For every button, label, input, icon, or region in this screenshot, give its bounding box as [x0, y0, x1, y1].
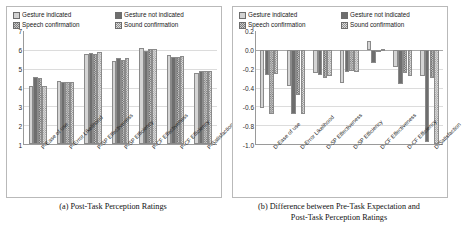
bar-gesture-indicated	[367, 41, 371, 49]
bar-sound-confirmation	[301, 50, 305, 114]
bar-sound-confirmation	[381, 49, 385, 51]
legend-label: Sound confirmation	[124, 21, 178, 29]
bar-sound-confirmation	[408, 50, 412, 76]
bar-sound-confirmation	[208, 71, 212, 144]
y-tick-label: 7	[18, 28, 22, 35]
legend-item-speech-confirmation: Speech confirmation	[239, 21, 341, 29]
x-axis-labels-b: D-Ease of useD-Error LikelihoodD-SP Effe…	[255, 145, 443, 197]
y-tick-label: 2	[18, 123, 22, 130]
panel-a: Gesture indicated Gesture not indicated …	[0, 0, 226, 236]
y-tick-label: -0.8	[243, 123, 254, 130]
legend-item-speech-confirmation: Speech confirmation	[13, 21, 115, 29]
chart-b: Gesture indicated Gesture not indicated …	[232, 6, 448, 198]
legend-item-sound-confirmation: Sound confirmation	[115, 21, 217, 29]
legend-label: Sound confirmation	[350, 21, 404, 29]
y-tick-label: -1.0	[243, 142, 254, 149]
y-tick-label: 1	[18, 142, 22, 149]
y-tick-label: -0.6	[243, 103, 254, 110]
bar-sound-confirmation	[274, 50, 278, 74]
bar-group	[256, 31, 283, 144]
legend-item-sound-confirmation: Sound confirmation	[341, 21, 443, 29]
caption-b-line2: Post-Task Perception Ratings	[230, 212, 448, 223]
legend-b: Gesture indicated Gesture not indicated …	[239, 11, 443, 29]
legend-label: Speech confirmation	[22, 21, 79, 29]
y-tick-label: 0.0	[245, 46, 254, 53]
caption-b: (b) Difference between Pre-Task Expectat…	[226, 201, 452, 223]
y-tick-label: -0.2	[243, 65, 254, 72]
caption-a: (a) Post-Task Perception Ratings	[0, 201, 226, 212]
legend-label: Gesture indicated	[22, 11, 71, 19]
bar-sound-confirmation	[97, 52, 101, 144]
y-tick-label: 0.2	[245, 28, 254, 35]
bar-sound-confirmation	[42, 86, 46, 144]
bar-group	[24, 31, 52, 144]
chart-a: Gesture indicated Gesture not indicated …	[6, 6, 222, 198]
y-axis-b: 0.20.0-0.2-0.4-0.6-0.8-1.0	[233, 31, 255, 145]
bar-sound-confirmation	[152, 49, 156, 144]
y-tick-label: 3	[18, 103, 22, 110]
bar-sound-confirmation	[180, 56, 184, 144]
dark-solid-swatch-icon	[115, 12, 122, 19]
bar-sound-confirmation	[125, 58, 129, 144]
bar-sound-confirmation	[70, 82, 74, 144]
legend-label: Gesture indicated	[248, 11, 297, 19]
legend-label: Speech confirmation	[248, 21, 305, 29]
x-axis-labels-a: P-Ease of useP-Error LikelihoodP-SP Effe…	[23, 145, 217, 197]
caption-b-line1: (b) Difference between Pre-Task Expectat…	[230, 201, 448, 212]
bar-sound-confirmation	[354, 50, 358, 73]
light-hatch-swatch-icon	[115, 22, 122, 29]
legend-a: Gesture indicated Gesture not indicated …	[13, 11, 217, 29]
light-solid-swatch-icon	[13, 12, 20, 19]
y-tick-label: 5	[18, 65, 22, 72]
y-tick-label: 4	[18, 85, 22, 92]
legend-label: Gesture not indicated	[350, 11, 410, 19]
y-tick-label: 6	[18, 46, 22, 53]
bar-sound-confirmation	[327, 50, 331, 76]
panel-b: Gesture indicated Gesture not indicated …	[226, 0, 452, 236]
legend-item-gesture-not-indicated: Gesture not indicated	[341, 11, 443, 19]
legend-label: Gesture not indicated	[124, 11, 184, 19]
plot-area-b: 0.20.0-0.2-0.4-0.6-0.8-1.0	[233, 31, 447, 145]
legend-item-gesture-indicated: Gesture indicated	[13, 11, 115, 19]
y-axis-a: 7654321	[7, 31, 23, 145]
legend-item-gesture-indicated: Gesture indicated	[239, 11, 341, 19]
dark-solid-swatch-icon	[341, 12, 348, 19]
legend-item-gesture-not-indicated: Gesture not indicated	[115, 11, 217, 19]
light-hatch-swatch-icon	[341, 22, 348, 29]
bar-sound-confirmation	[434, 50, 438, 144]
y-tick-label: -0.4	[243, 85, 254, 92]
light-solid-swatch-icon	[239, 12, 246, 19]
